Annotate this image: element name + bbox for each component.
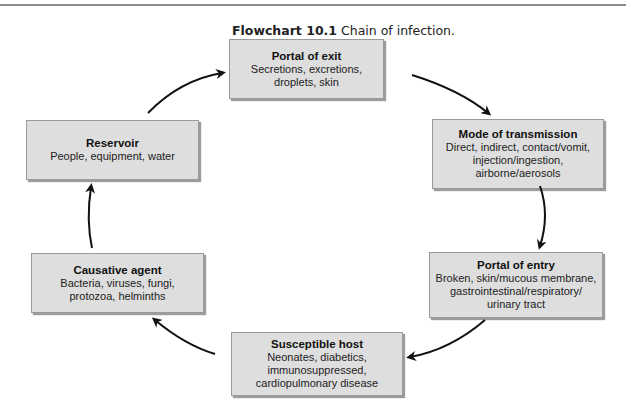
arrow-agent-to-reservoir [89, 187, 92, 248]
node-line: cardiopulmonary disease [232, 377, 402, 390]
node-title: Mode of transmission [433, 128, 603, 141]
node-line: Secretions, excretions, [230, 63, 383, 76]
node-title: Reservoir [27, 137, 198, 150]
arrow-reservoir-to-exit [148, 73, 222, 113]
arrow-host-to-agent [155, 320, 215, 354]
node-line: Broken, skin/mucous membrane, [430, 272, 602, 285]
caption-label: Flowchart 10.1 [232, 23, 337, 38]
node-title: Portal of entry [430, 259, 602, 272]
node-line: Bacteria, viruses, fungi, [32, 277, 203, 290]
arrow-entry-to-host [410, 320, 485, 357]
arrow-transmission-to-entry [540, 186, 545, 246]
figure-caption: Flowchart 10.1 Chain of infection. [232, 23, 455, 38]
node-mode-of-transmission: Mode of transmission Direct, indirect, c… [432, 119, 604, 189]
node-line: injection/ingestion, [433, 154, 603, 167]
caption-text: Chain of infection. [337, 23, 455, 38]
node-line: People, equipment, water [27, 150, 198, 163]
arrow-exit-to-transmission [412, 75, 488, 113]
node-causative-agent: Causative agent Bacteria, viruses, fungi… [31, 253, 204, 313]
node-title: Causative agent [32, 264, 203, 277]
node-line: airborne/aerosols [433, 167, 603, 180]
node-susceptible-host: Susceptible host Neonates, diabetics, im… [231, 332, 403, 396]
node-reservoir: Reservoir People, equipment, water [26, 120, 199, 180]
node-line: urinary tract [430, 298, 602, 311]
node-line: gastrointestinal/respiratory/ [430, 285, 602, 298]
node-portal-of-entry: Portal of entry Broken, skin/mucous memb… [429, 252, 603, 318]
node-line: immunosuppressed, [232, 364, 402, 377]
node-line: droplets, skin [230, 76, 383, 89]
node-title: Susceptible host [232, 338, 402, 351]
node-line: Direct, indirect, contact/vomit, [433, 141, 603, 154]
node-title: Portal of exit [230, 50, 383, 63]
node-line: protozoa, helminths [32, 290, 203, 303]
node-line: Neonates, diabetics, [232, 351, 402, 364]
node-portal-of-exit: Portal of exit Secretions, excretions, d… [229, 39, 384, 99]
top-rule [0, 4, 626, 6]
